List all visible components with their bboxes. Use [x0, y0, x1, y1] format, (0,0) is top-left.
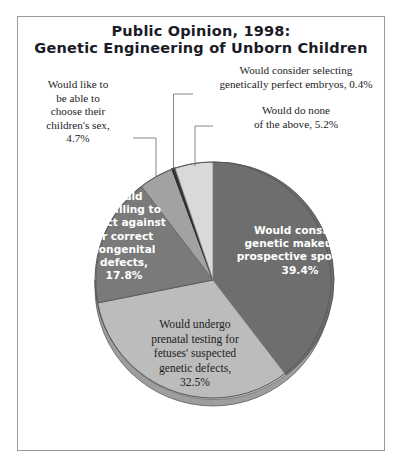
chart-page: Public Opinion, 1998: Genetic Engineerin… [0, 0, 404, 469]
label-prenatal-testing-line-3: fetuses' suspected [100, 347, 290, 362]
leader-line-none-of-the-above [195, 126, 213, 166]
label-congenital-defects-line-4: or correct [62, 230, 186, 243]
label-none-of-the-above-line-1: Would do none [206, 104, 386, 118]
label-prospective-spouses-line-3: prospective spouses, [222, 250, 378, 263]
label-congenital-defects-line-1: Would [62, 190, 186, 203]
label-choose-sex-value: 4.7% [14, 132, 142, 146]
label-none-of-the-above-line-2: of the above, 5.2% [206, 118, 386, 132]
label-perfect-embryos: Would consider selecting genetically per… [196, 64, 396, 91]
label-prenatal-testing-line-1: Would undergo [100, 318, 290, 333]
label-choose-sex-line-4: children's sex, [14, 119, 142, 133]
label-congenital-defects-value: 17.8% [62, 269, 186, 282]
label-choose-sex-line-1: Would like to [14, 78, 142, 92]
label-congenital-defects-line-6: defects, [62, 256, 186, 269]
label-choose-sex-line-3: choose their [14, 105, 142, 119]
label-prenatal-testing-value: 32.5% [100, 376, 290, 391]
label-congenital-defects-line-5: congenital [62, 243, 186, 256]
label-perfect-embryos-line-2: genetically perfect embryos, 0.4% [196, 78, 396, 92]
label-congenital-defects-line-2: be willing to [62, 203, 186, 216]
label-prenatal-testing: Would undergo prenatal testing for fetus… [100, 318, 290, 391]
label-prenatal-testing-line-4: genetic defects, [100, 362, 290, 377]
label-congenital-defects-line-3: select against [62, 216, 186, 229]
label-none-of-the-above: Would do none of the above, 5.2% [206, 104, 386, 131]
label-prospective-spouses-line-2: genetic makeup of [222, 237, 378, 250]
leader-line-perfect-embryos [174, 94, 194, 169]
label-prenatal-testing-line-2: prenatal testing for [100, 333, 290, 348]
label-congenital-defects: Would be willing to select against or co… [62, 190, 186, 282]
label-perfect-embryos-line-1: Would consider selecting [196, 64, 396, 78]
label-prospective-spouses: Would consider genetic makeup of prospec… [222, 224, 378, 277]
label-choose-sex: Would like to be able to choose their ch… [14, 78, 142, 146]
label-prospective-spouses-line-1: Would consider [222, 224, 378, 237]
label-prospective-spouses-value: 39.4% [222, 264, 378, 277]
label-choose-sex-line-2: be able to [14, 92, 142, 106]
